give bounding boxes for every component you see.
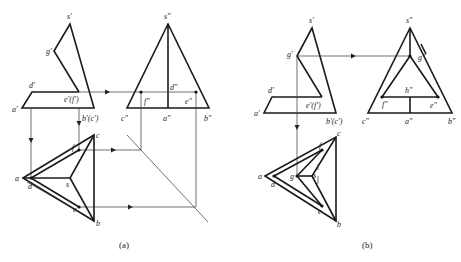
- label-h-dprime: h″: [405, 86, 413, 95]
- caption-a: (a): [119, 240, 129, 250]
- side-view-a: [127, 24, 209, 108]
- label-e-dprime: e″: [430, 101, 438, 110]
- label-c: c: [337, 129, 341, 138]
- label-c-dprime: c″: [362, 117, 370, 126]
- label-f: f: [72, 143, 76, 152]
- label-g-dprime: g″: [418, 53, 426, 62]
- label-e-dprime: e″: [185, 97, 193, 106]
- label-bc-prime: b′(c′): [82, 114, 99, 123]
- label-s-prime: s′: [309, 16, 314, 25]
- label-e: e: [318, 207, 322, 216]
- label-a: a: [15, 174, 19, 183]
- label-s-dprime: s″: [164, 12, 171, 21]
- label-d-prime: d′: [268, 86, 274, 95]
- label-a: a: [258, 172, 262, 181]
- label-b: b: [96, 219, 100, 228]
- label-f-dprime: f″: [382, 100, 388, 109]
- label-e: e: [73, 205, 77, 214]
- label-a-dprime: a″: [405, 117, 413, 126]
- top-view-b: [265, 137, 336, 221]
- label-b: b: [337, 220, 341, 229]
- projection-lines-a: [29, 90, 209, 223]
- figure-a: s′ g′ d′ a′ e′(f′) b′(c′) s″ d″ f″ e″ c″…: [12, 12, 212, 250]
- label-a-prime: a′: [12, 105, 18, 114]
- label-s: s: [66, 180, 69, 189]
- side-view-b: [368, 28, 452, 113]
- label-b-dprime: b″: [204, 114, 212, 123]
- label-g-prime: g′: [287, 50, 293, 59]
- projection-drawing: s′ g′ d′ a′ e′(f′) b′(c′) s″ d″ f″ e″ c″…: [0, 0, 461, 262]
- label-g: g: [290, 172, 294, 181]
- label-f-dprime: f″: [144, 97, 150, 106]
- top-view-a: [23, 135, 94, 221]
- label-d-dprime: d″: [170, 83, 178, 92]
- label-a-prime: a′: [254, 109, 260, 118]
- label-b-dprime: b″: [448, 117, 456, 126]
- label-s: s: [313, 171, 316, 180]
- projection-lines-b: [295, 54, 411, 177]
- label-c-dprime: c″: [121, 114, 129, 123]
- front-view-a: [22, 24, 94, 108]
- label-ef-prime: e′(f′): [306, 101, 321, 110]
- label-g-prime: g′: [46, 47, 52, 56]
- front-view-b: [264, 28, 336, 113]
- figure-b: s′ g′ d′ a′ e′(f′) b′(c′) s″ g″ h″ f″ e″…: [254, 16, 456, 250]
- caption-b: (b): [362, 240, 373, 250]
- label-c: c: [96, 131, 100, 140]
- label-a-dprime: a″: [163, 114, 171, 123]
- label-d-prime: d′: [29, 81, 35, 90]
- label-s-prime: s′: [67, 12, 72, 21]
- label-s-dprime: s″: [406, 16, 413, 25]
- label-ef-prime: e′(f′): [64, 95, 79, 104]
- label-bc-prime: b′(c′): [326, 117, 343, 126]
- label-d: d: [271, 180, 276, 189]
